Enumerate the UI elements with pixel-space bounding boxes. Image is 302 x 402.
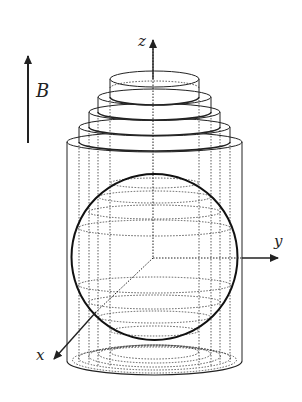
magnetic-field-arrow: B [28, 56, 49, 143]
dotted-verticals [79, 97, 230, 367]
dotted-rings [73, 178, 237, 373]
disk-stack [79, 71, 230, 151]
x-axis [96, 258, 153, 312]
field-label: B [35, 80, 49, 101]
outer-cylinder [67, 132, 242, 375]
z-axis-label: z [137, 32, 146, 50]
y-axis-label: y [273, 232, 283, 250]
sphere [72, 174, 238, 340]
x-axis-label: x [36, 346, 45, 364]
sphere-cylinder-diagram: B [0, 0, 302, 402]
